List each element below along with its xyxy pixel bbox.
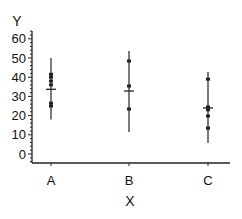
data-point: [49, 83, 53, 86]
data-point: [49, 80, 53, 83]
group-c: [203, 72, 213, 143]
y-tick-label: 10: [12, 127, 26, 142]
y-tick-label: 40: [12, 70, 26, 85]
y-tick-label: 20: [12, 108, 26, 123]
data-point: [49, 102, 53, 105]
chart-canvas: 0102030405060 ABC Y X: [0, 0, 242, 219]
x-tick-label: C: [203, 173, 212, 188]
data-point: [206, 78, 210, 81]
data-point: [127, 108, 131, 111]
y-axis-title: Y: [12, 13, 22, 29]
group-a: [46, 58, 56, 119]
y-tick-label: 50: [12, 51, 26, 66]
y-tick-label: 0: [19, 147, 26, 162]
x-tick-label: B: [125, 173, 134, 188]
y-tick-label: 60: [12, 31, 26, 46]
data-point: [49, 76, 53, 79]
x-axis-title: X: [125, 193, 135, 209]
data-point: [206, 114, 210, 117]
data-point: [206, 127, 210, 130]
x-tick-label: A: [47, 173, 56, 188]
group-b: [124, 51, 134, 132]
data-point: [127, 60, 131, 63]
data-point: [206, 105, 210, 108]
y-tick-label: 30: [12, 89, 26, 104]
data-point: [206, 108, 210, 111]
y-axis: 0102030405060: [12, 31, 32, 163]
data-point: [127, 85, 131, 88]
data-groups: [46, 51, 213, 143]
x-axis: ABC: [32, 163, 230, 188]
data-point: [49, 73, 53, 76]
data-point: [49, 105, 53, 108]
